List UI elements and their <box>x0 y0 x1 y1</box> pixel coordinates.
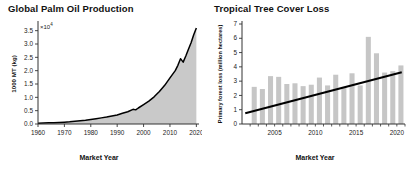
svg-text:2020: 2020 <box>390 129 405 136</box>
svg-text:0: 0 <box>233 120 237 127</box>
svg-text:3.0: 3.0 <box>24 40 33 47</box>
bar <box>268 76 273 124</box>
area-chart-svg: 0.00.51.01.52.02.53.03.5 196019701980199… <box>6 18 202 142</box>
bar <box>350 73 355 124</box>
area-fill-palm-oil <box>38 28 196 124</box>
svg-text:2010: 2010 <box>308 129 323 136</box>
svg-text:2010: 2010 <box>163 129 178 136</box>
bar <box>333 75 338 124</box>
svg-text:6: 6 <box>233 34 237 41</box>
chart-panel-global-palm-oil-production: Global Palm Oil Production ×104 0.00.51.… <box>0 0 206 178</box>
svg-text:2.0: 2.0 <box>24 67 33 74</box>
two-panel-figure: Global Palm Oil Production ×104 0.00.51.… <box>0 0 412 178</box>
svg-text:2000: 2000 <box>136 129 151 136</box>
bar <box>398 65 403 124</box>
plot-area-right: 01234567 2005201020152020 Primary forest… <box>212 18 408 142</box>
svg-text:2005: 2005 <box>267 129 282 136</box>
svg-text:1.0: 1.0 <box>24 94 33 101</box>
y-axis-tick-labels-right: 01234567 <box>233 20 237 127</box>
bar-chart-svg: 01234567 2005201020152020 Primary forest… <box>212 18 408 142</box>
svg-text:2020: 2020 <box>189 129 202 136</box>
svg-text:3: 3 <box>233 77 237 84</box>
x-axis-tick-labels-left: 1960197019801990200020102020 <box>31 129 202 136</box>
plot-area-left: 0.00.51.01.52.02.53.03.5 196019701980199… <box>6 18 202 142</box>
x-axis-title-right: Market Year <box>230 154 400 161</box>
bar <box>390 71 395 124</box>
svg-text:0.0: 0.0 <box>24 120 33 127</box>
x-axis-title-left: Market Year <box>14 154 184 161</box>
svg-text:7: 7 <box>233 20 237 27</box>
svg-text:0.5: 0.5 <box>24 107 33 114</box>
y-axis-tick-labels-left: 0.00.51.01.52.02.53.03.5 <box>24 27 33 127</box>
bar <box>276 77 281 124</box>
svg-text:1980: 1980 <box>84 129 99 136</box>
bar <box>284 84 289 124</box>
bar <box>358 85 363 124</box>
bar <box>292 83 297 124</box>
svg-text:1: 1 <box>233 106 237 113</box>
y-axis-title-left: 1000 MT (kg) <box>10 55 17 92</box>
svg-text:1960: 1960 <box>31 129 46 136</box>
bar-series-primary-forest-loss <box>252 37 404 124</box>
chart-panel-tropical-tree-cover-loss: Tropical Tree Cover Loss 01234567 200520… <box>206 0 412 178</box>
svg-text:1.5: 1.5 <box>24 80 33 87</box>
panel-title-right: Tropical Tree Cover Loss <box>214 3 329 14</box>
bar <box>341 87 346 124</box>
bar <box>309 85 314 124</box>
svg-text:3.5: 3.5 <box>24 27 33 34</box>
svg-text:1970: 1970 <box>57 129 72 136</box>
svg-text:5: 5 <box>233 49 237 56</box>
bar <box>260 89 265 124</box>
svg-text:1990: 1990 <box>110 129 125 136</box>
svg-text:2.5: 2.5 <box>24 54 33 61</box>
svg-text:4: 4 <box>233 63 237 70</box>
y-axis-title-right: Primary forest loss (million hectares) <box>217 25 223 124</box>
bar <box>252 87 257 124</box>
bar <box>382 73 387 124</box>
bar <box>317 78 322 124</box>
panel-title-left: Global Palm Oil Production <box>8 3 134 14</box>
bar <box>301 86 306 124</box>
svg-text:2015: 2015 <box>349 129 364 136</box>
bar <box>374 53 379 124</box>
x-axis-tick-labels-right: 2005201020152020 <box>267 129 404 136</box>
svg-text:2: 2 <box>233 92 237 99</box>
